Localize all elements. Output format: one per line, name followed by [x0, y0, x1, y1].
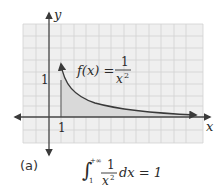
function-numerator: 1	[121, 55, 129, 69]
integral-expression: ∫ +∞ 1 1 x 2 dx = 1	[82, 157, 162, 186]
y-tick-label: 1	[41, 73, 49, 87]
integral-lower-limit: 1	[89, 177, 93, 185]
function-lhs: f(x) =	[76, 63, 114, 78]
integral-upper-limit: +∞	[90, 157, 102, 165]
function-exponent: 2	[124, 71, 129, 80]
x-axis-label: x	[206, 119, 214, 134]
function-denominator: x	[116, 72, 123, 86]
improper-integral-figure: y x 1 1 f(x) = 1 x 2 ∫ +∞ 1 1 x 2 dx = 1…	[0, 0, 224, 186]
integral-numerator: 1	[107, 158, 115, 172]
y-axis-label: y	[53, 7, 62, 22]
figure-label: (a)	[20, 158, 38, 173]
integral-exponent: 2	[110, 174, 114, 182]
x-tick-label: 1	[58, 121, 66, 135]
integral-differential: dx = 1	[119, 165, 162, 180]
grid-background	[23, 24, 203, 143]
integral-denominator: x	[102, 174, 109, 186]
